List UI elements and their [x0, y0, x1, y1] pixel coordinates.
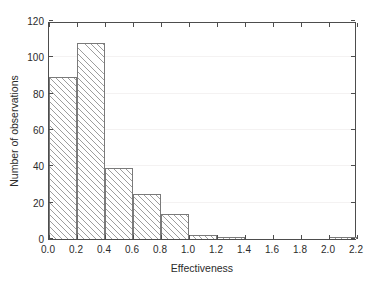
x-axis-tick	[273, 235, 274, 239]
y-tick-label: 80	[33, 89, 44, 101]
x-axis-tick	[329, 235, 330, 239]
y-axis-tick	[49, 20, 53, 21]
y-axis-label-text: Number of observations	[8, 75, 20, 186]
x-tick-label: 0.6	[125, 244, 139, 256]
histogram-bar	[161, 214, 189, 239]
x-axis-tick	[245, 23, 246, 27]
x-axis-tick	[189, 23, 190, 27]
x-axis-tick	[105, 235, 106, 239]
y-axis-tick	[351, 56, 355, 57]
histogram-bars	[49, 23, 355, 239]
x-axis-tick	[301, 235, 302, 239]
x-axis-tick	[161, 23, 162, 27]
histogram-bar	[105, 168, 133, 239]
histogram-bar	[133, 194, 161, 239]
x-axis-tick	[217, 23, 218, 27]
histogram-bar	[77, 43, 105, 239]
x-axis-tick	[329, 23, 330, 27]
x-axis-tick	[301, 23, 302, 27]
x-tick-label: 1.4	[237, 244, 251, 256]
y-axis-label: Number of observations	[7, 22, 21, 240]
y-axis-tick	[351, 129, 355, 130]
y-axis-tick	[49, 93, 53, 94]
y-tick-label: 100	[27, 52, 44, 64]
y-tick-label: 20	[33, 198, 44, 210]
histogram-bar	[217, 237, 245, 239]
x-axis-tick	[77, 235, 78, 239]
x-axis-tick	[161, 235, 162, 239]
y-axis-tick	[49, 56, 53, 57]
x-tick-label: 1.6	[265, 244, 279, 256]
x-axis-tick	[217, 235, 218, 239]
y-axis-tick	[49, 129, 53, 130]
x-tick-label: 0.8	[153, 244, 167, 256]
y-axis-tick	[351, 202, 355, 203]
y-axis-tick	[351, 20, 355, 21]
x-axis-tick	[133, 23, 134, 27]
x-axis-tick	[77, 23, 78, 27]
x-axis-tick	[245, 235, 246, 239]
x-tick-label: 1.0	[181, 244, 195, 256]
y-tick-label: 60	[33, 125, 44, 137]
y-axis-tick	[49, 165, 53, 166]
y-axis-tick	[351, 93, 355, 94]
x-tick-label: 0.2	[69, 244, 83, 256]
x-axis-label: Effectiveness	[48, 262, 356, 274]
x-tick-label: 1.2	[209, 244, 223, 256]
x-tick-label: 2.2	[349, 244, 363, 256]
y-axis-tick	[351, 238, 355, 239]
x-axis-tick	[105, 23, 106, 27]
y-axis-tick	[49, 202, 53, 203]
plot-area	[48, 22, 356, 240]
y-tick-label: 40	[33, 161, 44, 173]
y-axis-tick	[351, 165, 355, 166]
y-tick-label: 120	[27, 16, 44, 28]
x-axis-tick	[189, 235, 190, 239]
x-axis-tick	[273, 23, 274, 27]
histogram-bar	[49, 77, 77, 239]
histogram-figure: Number of observations Effectiveness 0.0…	[0, 0, 371, 289]
x-tick-label: 1.8	[293, 244, 307, 256]
x-axis-tick	[49, 23, 50, 27]
y-axis-tick	[49, 238, 53, 239]
x-axis-tick	[357, 23, 358, 27]
x-axis-tick	[357, 235, 358, 239]
x-tick-label: 0.4	[97, 244, 111, 256]
y-tick-label: 0	[38, 234, 44, 246]
x-axis-tick	[133, 235, 134, 239]
x-tick-label: 2.0	[321, 244, 335, 256]
histogram-bar	[189, 235, 217, 239]
